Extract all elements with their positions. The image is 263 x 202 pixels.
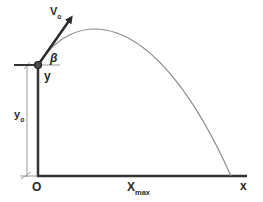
origin-label: O [32,181,41,193]
launch-height-y-text: y [44,69,51,83]
initial-height-label-sub: o [20,116,24,123]
launch-point [35,62,42,69]
projectile-diagram [0,0,263,202]
angle-label: β [50,52,57,64]
trajectory-curve [38,29,231,176]
initial-height-label: yo [14,109,24,120]
launch-height-y-label: y [44,70,51,82]
range-label: Xmax [127,181,150,193]
velocity-label-sub: o [57,13,61,20]
range-label-sub: max [135,188,150,197]
angle-label-text: β [50,51,57,65]
x-axis-label-text: x [240,179,247,193]
velocity-label: Vo [50,6,62,17]
x-axis-label: x [240,180,247,192]
range-label-main: X [127,180,135,194]
origin-label-text: O [32,180,41,194]
